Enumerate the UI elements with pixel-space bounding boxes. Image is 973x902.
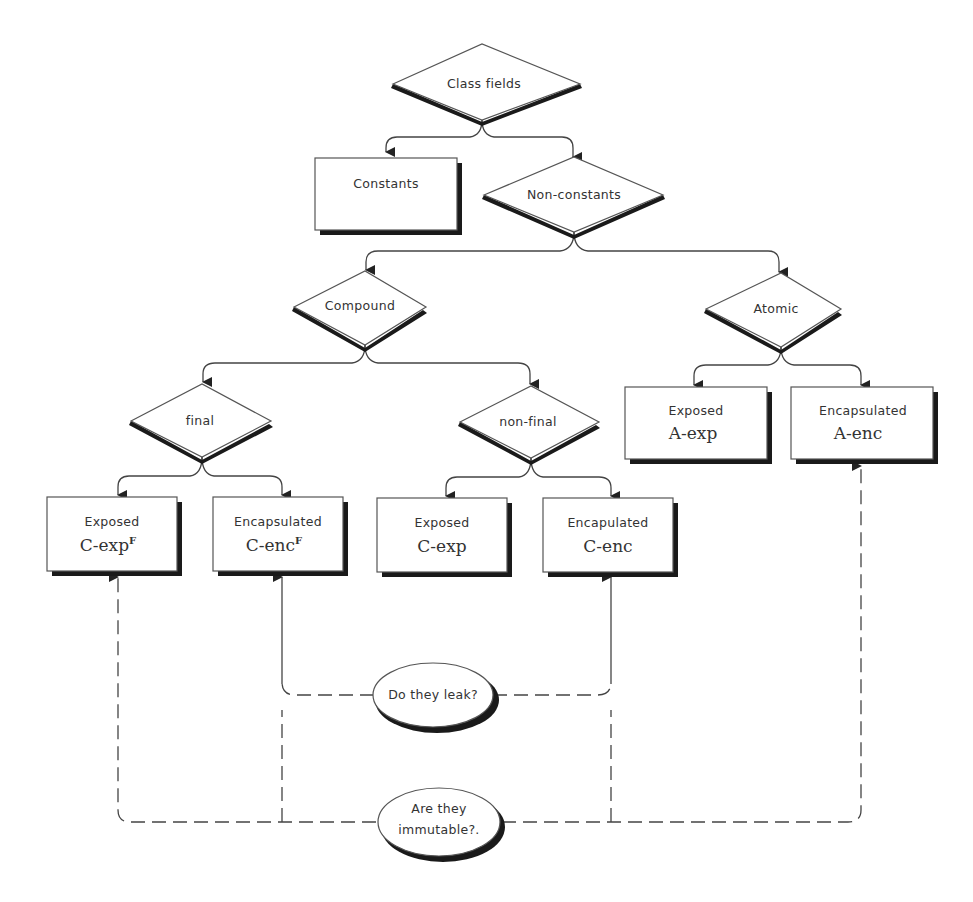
- leaf-code: A-enc: [833, 423, 883, 443]
- leaf-title: Exposed: [668, 403, 723, 418]
- flowchart-canvas: Class fields Non-constants Compound Atom…: [0, 0, 973, 902]
- non-constants-label: Non-constants: [527, 187, 621, 202]
- non-final-label: non-final: [499, 414, 557, 429]
- class-fields-label: Class fields: [447, 76, 521, 91]
- question-do-they-leak[interactable]: Do they leak?: [373, 663, 499, 733]
- leaf-title: Encapulated: [567, 515, 648, 530]
- immutable-question-line1: Are they: [411, 801, 467, 816]
- edge-atomic-aenc: [781, 347, 861, 385]
- edge-root-constants: [386, 120, 482, 152]
- question-are-they-immutable[interactable]: Are they immutable?.: [378, 788, 505, 862]
- edge-immutable-left: [118, 577, 376, 822]
- leaf-code: C-expF: [80, 535, 136, 555]
- leaf-title: Encapsulated: [234, 514, 322, 529]
- edge-final-cexpf: [118, 457, 202, 495]
- leaf-c-exp-final[interactable]: Exposed C-expF: [47, 497, 182, 576]
- constants-label: Constants: [353, 176, 418, 191]
- immutable-question-line2: immutable?.: [398, 822, 479, 837]
- edge-compound-nonfinal: [365, 345, 530, 384]
- decision-compound[interactable]: Compound: [292, 271, 427, 352]
- decision-class-fields[interactable]: Class fields: [391, 44, 582, 126]
- leaf-c-enc[interactable]: Encapulated C-enc: [543, 498, 678, 577]
- edge-compound-final: [203, 345, 365, 382]
- decision-non-constants[interactable]: Non-constants: [482, 157, 665, 239]
- final-label: final: [186, 413, 214, 428]
- decision-final[interactable]: final: [129, 384, 273, 464]
- edge-leak-left: [282, 682, 374, 695]
- edge-nonconstants-atomic: [574, 232, 779, 272]
- leaf-title: Encapsulated: [819, 403, 907, 418]
- node-constants[interactable]: Constants: [315, 158, 462, 235]
- edge-root-nonconstants: [482, 120, 573, 157]
- leaf-c-exp[interactable]: Exposed C-exp: [377, 498, 512, 577]
- edge-atomic-aexp: [694, 347, 781, 385]
- edge-nonfinal-cexp: [446, 458, 531, 496]
- atomic-label: Atomic: [753, 301, 798, 316]
- edge-leak-right: [493, 682, 611, 695]
- edge-nonfinal-cenc: [531, 458, 611, 496]
- leaf-code: C-exp: [417, 536, 466, 556]
- leaf-a-enc[interactable]: Encapsulated A-enc: [791, 387, 938, 464]
- leaf-code: C-encF: [246, 535, 302, 555]
- leaf-code: A-exp: [668, 423, 718, 443]
- decision-atomic[interactable]: Atomic: [704, 273, 842, 354]
- compound-label: Compound: [325, 298, 395, 313]
- leaf-title: Exposed: [414, 515, 469, 530]
- leak-question-label: Do they leak?: [388, 687, 478, 702]
- edge-nonconstants-compound: [366, 232, 574, 270]
- leaf-code: C-enc: [583, 536, 632, 556]
- leaf-c-enc-final[interactable]: Encapsulated C-encF: [213, 497, 348, 576]
- edge-final-cencf: [202, 457, 282, 495]
- decision-non-final[interactable]: non-final: [458, 386, 600, 465]
- leaf-title: Exposed: [84, 514, 139, 529]
- leaf-a-exp[interactable]: Exposed A-exp: [625, 387, 772, 464]
